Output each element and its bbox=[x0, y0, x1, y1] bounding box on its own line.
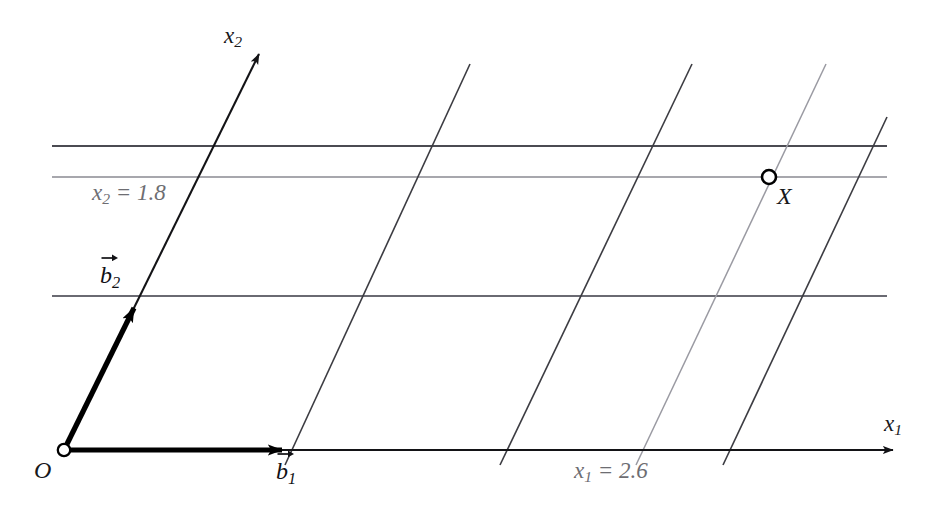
axis-label-x1-subscript: 1 bbox=[894, 421, 902, 438]
axis-label-x1-base: x bbox=[884, 411, 894, 436]
gridline-label-x2-subscript: 2 bbox=[102, 190, 110, 207]
figure-canvas: x2 x1 O X x2 = 1.8 x1 = 2.6 b1 b2 bbox=[0, 0, 942, 515]
gridline-label-x1-base: x bbox=[574, 458, 584, 483]
gridline-label-x1-value: = 2.6 bbox=[592, 458, 648, 483]
gridline-x1-b bbox=[500, 64, 692, 465]
axis-label-x1: x1 bbox=[884, 412, 902, 438]
basis-vector-b2 bbox=[67, 308, 134, 444]
axis-label-x2: x2 bbox=[224, 24, 242, 50]
gridline-label-x2-value: = 1.8 bbox=[110, 180, 166, 205]
basis-label-b1-subscript: 1 bbox=[288, 469, 296, 488]
gridline-label-x2-base: x bbox=[92, 180, 102, 205]
basis-label-b2: b2 bbox=[100, 263, 120, 291]
basis-label-b1-base: b bbox=[276, 458, 288, 484]
basis-label-b1: b1 bbox=[276, 459, 296, 487]
gridline-label-x1: x1 = 2.6 bbox=[574, 459, 648, 485]
gridline-x1-a bbox=[285, 64, 470, 465]
coordinate-system-svg bbox=[0, 0, 942, 515]
origin-label: O bbox=[34, 458, 51, 482]
point-x-marker bbox=[762, 170, 776, 184]
basis-label-b2-subscript: 2 bbox=[112, 273, 120, 292]
basis-label-b2-base: b bbox=[100, 262, 112, 288]
gridline-x1-2-6 bbox=[636, 64, 826, 465]
gridline-label-x2: x2 = 1.8 bbox=[92, 181, 166, 207]
axis-label-x2-base: x bbox=[224, 23, 234, 48]
gridline-label-x1-subscript: 1 bbox=[584, 468, 592, 485]
origin-marker bbox=[58, 444, 70, 456]
axis-label-x2-subscript: 2 bbox=[234, 33, 242, 50]
gridline-group-constant-x1 bbox=[285, 64, 887, 465]
basis-label-b1-stack: b1 bbox=[276, 459, 296, 487]
point-label-x: X bbox=[777, 184, 792, 208]
gridline-x1-d bbox=[723, 117, 887, 465]
basis-label-b2-stack: b2 bbox=[100, 263, 120, 291]
